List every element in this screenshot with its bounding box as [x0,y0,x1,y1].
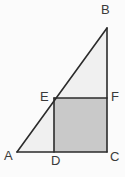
square-defc-fill [54,98,107,152]
figure-canvas [0,0,125,177]
geometry-figure: A B C D E F [0,0,125,177]
vertex-label-a: A [4,149,13,162]
vertex-label-b: B [101,3,110,16]
vertex-label-e: E [40,90,49,103]
vertex-label-c: C [110,150,119,163]
vertex-label-f: F [111,90,119,103]
vertex-label-d: D [51,154,60,167]
